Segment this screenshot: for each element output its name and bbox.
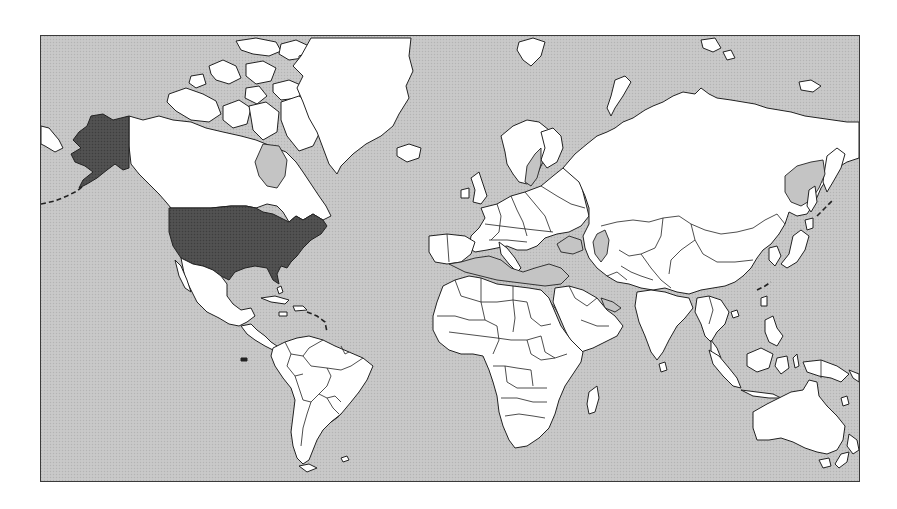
galapagos	[241, 358, 247, 361]
world-map-frame	[40, 35, 860, 482]
world-map	[41, 36, 859, 481]
